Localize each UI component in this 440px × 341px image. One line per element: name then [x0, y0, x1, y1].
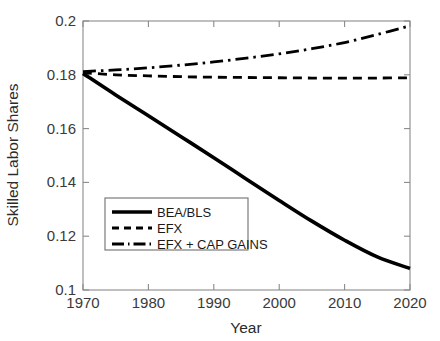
y-axis-title: Skilled Labor Shares: [4, 83, 21, 226]
x-tick-label: 2010: [328, 294, 361, 311]
x-axis-title: Year: [230, 319, 261, 336]
legend-label: BEA/BLS: [157, 205, 212, 220]
x-axis-tick-labels: 197019801990200020102020: [66, 294, 426, 311]
x-tick-label: 2000: [263, 294, 296, 311]
y-axis-tick-labels: 0.10.120.140.160.180.2: [47, 12, 76, 298]
y-tick-label: 0.14: [47, 173, 76, 190]
y-tick-label: 0.12: [47, 227, 76, 244]
x-tick-label: 1990: [197, 294, 230, 311]
y-tick-label: 0.18: [47, 66, 76, 83]
series-line-efx: [83, 73, 410, 78]
line-chart: 197019801990200020102020 0.10.120.140.16…: [0, 0, 440, 341]
x-tick-label: 1980: [132, 294, 165, 311]
y-tick-label: 0.16: [47, 120, 76, 137]
series-line-efx-cap-gains: [83, 26, 410, 72]
x-tick-label: 2020: [393, 294, 426, 311]
y-tick-label: 0.2: [55, 12, 76, 29]
legend-label: EFX + CAP GAINS: [157, 237, 268, 252]
legend-label: EFX: [157, 221, 183, 236]
chart-legend: BEA/BLSEFXEFX + CAP GAINS: [105, 198, 268, 252]
chart-figure: 197019801990200020102020 0.10.120.140.16…: [0, 0, 440, 341]
y-tick-label: 0.1: [55, 281, 76, 298]
